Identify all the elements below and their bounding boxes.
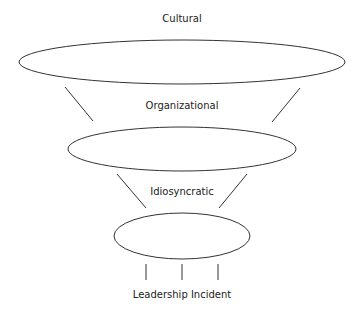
organizational-ellipse: [68, 127, 296, 171]
label-idiosyncratic: Idiosyncratic: [82, 186, 282, 197]
label-leadership-incident: Leadership Incident: [82, 289, 282, 300]
label-organizational: Organizational: [82, 100, 282, 111]
label-cultural: Cultural: [82, 13, 282, 24]
funnel-diagram: [0, 0, 361, 317]
cultural-ellipse: [19, 40, 345, 84]
idiosyncratic-ellipse: [114, 213, 250, 259]
